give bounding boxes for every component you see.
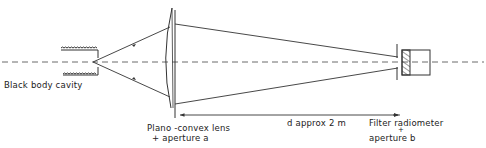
- aperture-b-label: aperture b: [369, 133, 416, 143]
- distance-dimension: [180, 113, 400, 117]
- arrow-right-icon: [394, 113, 399, 117]
- aperture-a-label: + aperture a: [152, 133, 209, 143]
- black-body-cavity: [61, 47, 98, 75]
- converging-rays: [175, 24, 398, 104]
- filter-radiometer-label: Filter radiometer: [369, 118, 443, 128]
- black-body-cavity-label: Black body cavity: [4, 80, 82, 90]
- filter-radiometer: [402, 50, 430, 75]
- distance-label: d approx 2 m: [287, 118, 346, 128]
- plano-convex-lens: [166, 8, 173, 108]
- lens-label: Plano -convex lens: [147, 123, 230, 133]
